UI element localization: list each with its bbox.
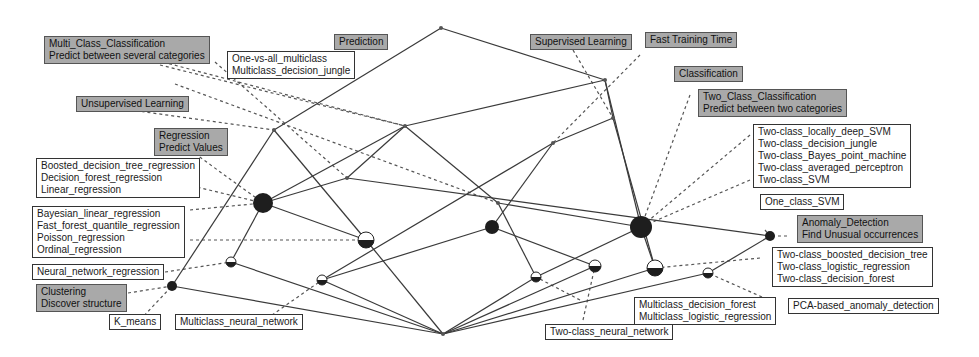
label-line: Two-class_SVM <box>758 174 906 186</box>
label-line: Linear_regression <box>41 184 195 196</box>
lattice-edge <box>708 236 770 273</box>
object-label-k-means: K_means <box>109 314 161 330</box>
lattice-node-clustering[interactable] <box>167 281 177 291</box>
lattice-edge <box>498 203 536 277</box>
label-line: Two-class_averaged_perceptron <box>758 162 906 174</box>
object-label-two-class-svm-group: Two-class_locally_deep_SVMTwo-class_deci… <box>753 124 911 188</box>
label-line: Two-class_neural_network <box>550 326 668 338</box>
lattice-edge <box>231 203 263 262</box>
lattice-node-two_class[interactable] <box>630 216 652 238</box>
object-label-two-class-boosted-group: Two-class_boosted_decision_treeTwo-class… <box>772 247 933 287</box>
lattice-node-tcnn[interactable] <box>589 260 601 272</box>
label-line: Multiclass_decision_jungle <box>232 65 350 77</box>
attribute-label-multi-class-classification: Multi_Class_ClassificationPredict betwee… <box>44 36 210 64</box>
object-label-two-class-neural-network: Two-class_neural_network <box>545 324 673 340</box>
attribute-label-anomaly-detection: Anomaly_DetectionFind Unusual occurrence… <box>797 215 923 243</box>
lattice-node-top[interactable] <box>439 26 443 30</box>
label-line: PCA-based_anomaly_detection <box>793 300 934 312</box>
lattice-edge <box>263 178 347 203</box>
object-label-one-class-svm: One_class_SVM <box>760 194 844 210</box>
label-line: Supervised Learning <box>535 36 627 48</box>
label-line: Neural_network_regression <box>37 266 159 278</box>
lattice-node-multi_class_obj[interactable] <box>485 220 499 234</box>
object-label-pca-anomaly: PCA-based_anomaly_detection <box>788 298 939 314</box>
dashed-connector <box>215 62 347 178</box>
dashed-connector <box>655 258 760 268</box>
lattice-edge <box>492 227 595 266</box>
lattice-node-mnn[interactable] <box>317 275 327 285</box>
lattice-node-anomaly[interactable] <box>765 231 775 241</box>
label-line: Two-class_Bayes_point_machine <box>758 150 906 162</box>
label-line: Fast Training Time <box>650 34 732 46</box>
label-line: Prediction <box>339 36 383 48</box>
lattice-node-prediction[interactable] <box>403 124 407 128</box>
lattice-node-regression[interactable] <box>253 193 273 213</box>
lattice-node-tcbdt[interactable] <box>647 260 663 276</box>
object-label-boosted-regression: Boosted_decision_tree_regressionDecision… <box>36 158 200 198</box>
attribute-label-clustering: ClusteringDiscover structure <box>36 284 127 312</box>
lattice-node-bottom[interactable] <box>441 332 445 336</box>
lattice-edge <box>263 126 405 203</box>
dashed-connector <box>190 203 263 210</box>
lattice-edge <box>405 126 498 203</box>
attribute-label-classification: Classification <box>674 66 743 82</box>
object-label-multiclass-neural-network: Multiclass_neural_network <box>175 314 303 330</box>
label-line: Ordinal_regression <box>37 244 180 256</box>
label-line: Multi_Class_Classification <box>49 38 205 50</box>
lattice-edge <box>553 118 613 143</box>
lattice-node-pca[interactable] <box>703 268 713 278</box>
dashed-connector <box>583 266 595 320</box>
dashed-connector <box>708 273 762 297</box>
dashed-connector <box>128 286 172 293</box>
dashed-connector <box>641 135 750 227</box>
attribute-label-fast-training-time: Fast Training Time <box>645 32 737 48</box>
label-line: Multiclass_neural_network <box>180 316 298 328</box>
label-line: Predict between two categories <box>703 103 842 115</box>
dashed-connector <box>641 95 690 227</box>
label-line: K_means <box>114 316 156 328</box>
label-line: Multiclass_decision_forest <box>639 299 771 311</box>
lattice-node-nnr[interactable] <box>226 257 236 267</box>
attribute-label-supervised-learning: Supervised Learning <box>530 34 632 50</box>
object-label-multiclass-forest-group: Multiclass_decision_forestMulticlass_log… <box>634 297 776 325</box>
lattice-edge <box>322 280 443 334</box>
label-line: Find Unusual occurrences <box>802 229 918 241</box>
label-line: Unsupervised Learning <box>81 98 184 110</box>
label-line: Fast_forest_quantile_regression <box>37 220 180 232</box>
attribute-label-regression: RegressionPredict Values <box>154 128 228 156</box>
lattice-edge <box>613 118 655 268</box>
lattice-node-unsupervised[interactable] <box>272 128 276 132</box>
label-line: Boosted_decision_tree_regression <box>41 160 195 172</box>
attribute-label-two-class-classification: Two_Class_ClassificationPredict between … <box>698 89 847 117</box>
label-line: One-vs-all_multiclass <box>232 53 350 65</box>
object-label-neural-network-regression: Neural_network_regression <box>32 264 164 280</box>
object-label-one-vs-all: One-vs-all_multiclassMulticlass_decision… <box>227 51 355 79</box>
label-line: Poisson_regression <box>37 232 180 244</box>
label-line: Multiclass_logistic_regression <box>639 311 771 323</box>
label-line: Two-class_logistic_regression <box>777 261 928 273</box>
label-line: Two-class_boosted_decision_tree <box>777 249 928 261</box>
label-line: Discover structure <box>41 298 122 310</box>
label-line: Anomaly_Detection <box>802 217 918 229</box>
lattice-node-supervised[interactable] <box>603 78 607 82</box>
label-line: Two-class_decision_jungle <box>758 138 906 150</box>
lattice-node-fast[interactable] <box>611 116 615 120</box>
label-line: Classification <box>679 68 738 80</box>
lattice-edge <box>443 277 536 334</box>
lattice-node-dfr[interactable] <box>358 232 374 248</box>
label-line: Clustering <box>41 286 122 298</box>
lattice-node-pred_class[interactable] <box>496 201 500 205</box>
dashed-connector <box>165 262 231 272</box>
dashed-connector <box>190 150 263 203</box>
lattice-edge <box>405 80 605 126</box>
label-line: Two-class_locally_deep_SVM <box>758 126 906 138</box>
label-line: Two-class_decision_forest <box>777 273 928 285</box>
lattice-node-multi[interactable] <box>345 176 349 180</box>
label-line: Predict Values <box>159 142 223 154</box>
lattice-node-mdf[interactable] <box>531 272 541 282</box>
label-line: Two_Class_Classification <box>703 91 842 103</box>
lattice-node-classification[interactable] <box>551 141 555 145</box>
lattice-edge <box>492 143 553 227</box>
dashed-connector <box>573 50 613 118</box>
label-line: Bayesian_linear_regression <box>37 208 180 220</box>
